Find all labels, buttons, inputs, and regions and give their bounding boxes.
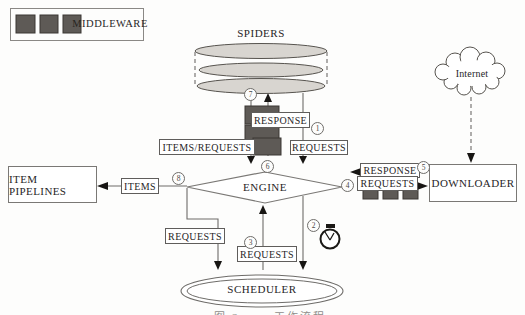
middleware-legend-label: MIDDLEWARE <box>77 17 143 30</box>
step-circle-6: 6 <box>261 160 274 173</box>
arrow-left-into-scheduler-icon <box>214 261 222 270</box>
arrow-into-item-pipelines-icon <box>97 182 108 190</box>
downloader-title: DOWNLOADER <box>432 177 515 189</box>
spider-ellipse <box>197 79 325 94</box>
step-circle-5: 5 <box>417 161 430 174</box>
step-circle-2: 2 <box>307 219 320 232</box>
scheduler-title: SCHEDULER <box>217 282 307 295</box>
downloader-node: DOWNLOADER <box>429 164 517 202</box>
spider-ellipse <box>199 63 323 77</box>
arrow-internet-into-downloader-icon <box>467 153 475 163</box>
step-circle-7: 7 <box>244 88 257 101</box>
spider-ellipse <box>195 44 327 59</box>
arrow-into-downloader-icon <box>417 182 428 190</box>
flow-label-requests-right: REQUESTS <box>357 176 418 191</box>
step-circle-3: 3 <box>244 236 257 249</box>
scrapy-architecture-diagram: MIDDLEWARE SPIDERS ENGINE SCHEDULER Inte… <box>0 0 525 315</box>
arrow-into-engine-bottom-icon <box>259 205 267 214</box>
arrow-into-spiders-icon <box>264 93 272 102</box>
stopwatch-icon <box>321 224 340 249</box>
item-pipelines-node: ITEM PIPELINES <box>8 166 97 203</box>
spiders-title: SPIDERS <box>222 26 300 39</box>
arrow-right-into-scheduler-icon <box>299 261 307 270</box>
arrow-into-engine-top-icon <box>247 156 255 164</box>
arrow-requests-into-engine-icon <box>299 156 307 164</box>
step-circle-4: 4 <box>341 179 354 192</box>
diagram-canvas <box>0 0 525 315</box>
figure-caption: 图 Scrapy工作流程 <box>186 308 354 315</box>
step-circle-1: 1 <box>311 122 324 135</box>
flow-label-items: ITEMS <box>121 178 159 194</box>
flow-label-requests-left: REQUESTS <box>165 228 225 244</box>
internet-title: Internet <box>449 67 495 79</box>
engine-to-scheduler-left-line <box>187 188 218 262</box>
flow-label-requests-from-spiders: REQUESTS <box>290 140 348 155</box>
middleware-block-icon <box>253 138 281 155</box>
flow-label-requests-center: REQUESTS <box>237 246 297 262</box>
flow-label-items-requests: ITEMS/REQUESTS <box>159 139 255 155</box>
engine-title: ENGINE <box>230 181 300 193</box>
item-pipelines-title: ITEM PIPELINES <box>9 173 96 197</box>
spiders-stack <box>195 44 327 94</box>
step-circle-8: 8 <box>172 172 185 185</box>
flow-label-response-to-spiders: RESPONSE <box>251 112 310 128</box>
